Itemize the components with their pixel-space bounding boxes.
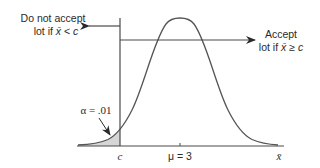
accept-label-line2: lot if x̄ ≥ c [259,41,304,53]
alpha-pointer-arrow [99,118,110,135]
x-bar-label: x̄ [276,150,282,162]
alpha-label: α = .01 [80,104,111,116]
reject-label-line2: lot if x̄ < c [34,25,79,37]
mu-label: μ = 3 [168,150,192,162]
alpha-shaded-region [78,131,120,147]
c-label: c [118,150,123,162]
normal-curve [78,18,278,145]
acceptance-sampling-diagram: Do not accept lot if x̄ < c Accept lot i… [0,0,320,168]
accept-label-line1: Accept [265,28,297,40]
reject-label-line1: Do not accept [21,12,86,24]
